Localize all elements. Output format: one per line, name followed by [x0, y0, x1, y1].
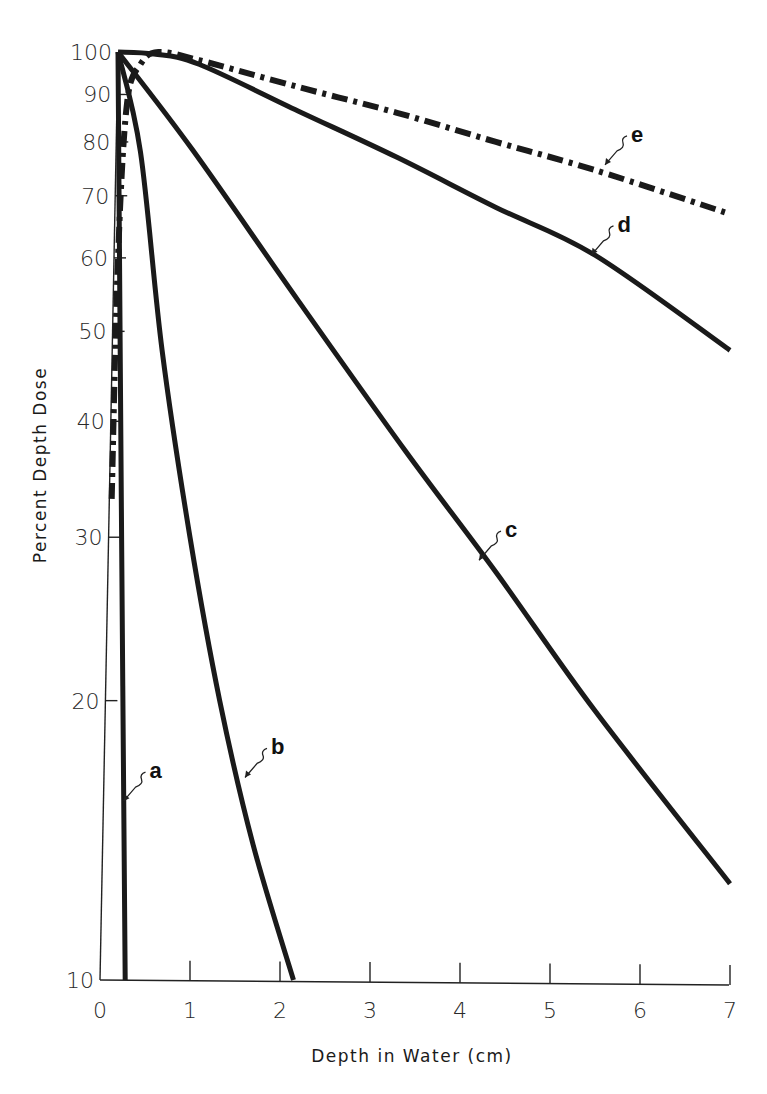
y-tick-label: 40	[77, 409, 105, 434]
y-tick-label: 90	[83, 82, 111, 107]
y-tick-label: 60	[80, 246, 108, 271]
curve-c	[118, 52, 730, 884]
curve-labels: abcde	[124, 122, 644, 801]
x-tick-label: 7	[723, 998, 737, 1023]
curves	[112, 52, 730, 980]
x-tick-label: 4	[453, 998, 467, 1023]
x-tick-label: 5	[543, 998, 557, 1023]
x-tick-label: 0	[93, 998, 107, 1023]
curve-a	[118, 52, 125, 980]
x-axis-title: Depth in Water (cm)	[311, 1046, 512, 1066]
axes: 01234567102030405060708090100	[66, 40, 737, 1023]
x-tick-label: 2	[273, 998, 287, 1023]
x-tick-label: 6	[633, 998, 647, 1023]
curve-label-c: c	[505, 517, 517, 542]
x-axis-line	[100, 980, 729, 985]
curve-e	[112, 52, 730, 499]
y-tick-label: 50	[79, 319, 107, 344]
y-tick-label: 20	[71, 689, 99, 714]
curve-b	[118, 52, 294, 980]
x-tick-label: 3	[363, 998, 377, 1023]
curve-label-e: e	[631, 122, 643, 147]
curve-label-b: b	[271, 734, 284, 759]
y-tick-label: 30	[75, 525, 103, 550]
y-axis-title: Percent Depth Dose	[30, 367, 50, 563]
curve-label-d: d	[618, 212, 631, 237]
y-tick-label: 100	[70, 40, 112, 65]
y-tick-label: 80	[82, 130, 110, 155]
curve-d	[118, 52, 730, 350]
percent-depth-dose-chart: 01234567102030405060708090100 abcde Dept…	[0, 0, 767, 1094]
y-tick-label: 10	[66, 968, 94, 993]
curve-label-a: a	[150, 758, 163, 783]
x-tick-label: 1	[183, 998, 197, 1023]
y-tick-label: 70	[81, 184, 109, 209]
